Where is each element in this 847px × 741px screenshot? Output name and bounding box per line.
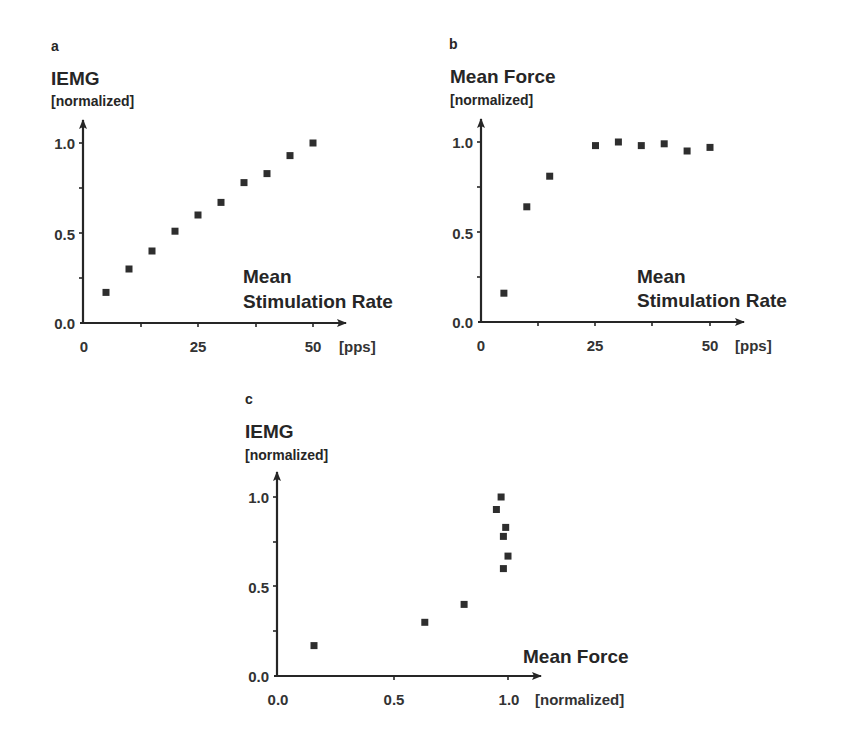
data-point	[638, 142, 645, 149]
data-point	[500, 565, 507, 572]
x-tick-label: 0	[80, 338, 88, 355]
x-axis-unit: [normalized]	[535, 691, 624, 708]
x-tick-label: 1.0	[499, 691, 520, 708]
x-axis-title-line2: Stimulation Rate	[243, 291, 393, 312]
data-point	[287, 152, 294, 159]
figure: a IEMG [normalized] 1.0 0.5 0.0 0 25 50 …	[0, 0, 847, 741]
data-points	[311, 494, 512, 650]
x-axis-unit: [pps]	[735, 337, 772, 354]
y-tick-label: 1.0	[248, 489, 269, 506]
y-axis-unit: [normalized]	[450, 92, 533, 108]
panel-a: a IEMG [normalized] 1.0 0.5 0.0 0 25 50 …	[51, 38, 393, 355]
data-point	[264, 170, 271, 177]
y-tick-label: 1.0	[54, 135, 75, 152]
data-point	[241, 179, 248, 186]
panel-label: b	[449, 36, 458, 52]
data-point	[500, 290, 507, 297]
x-tick-label: 0	[477, 337, 485, 354]
panel-label: a	[51, 38, 59, 54]
data-point	[505, 553, 512, 560]
x-tick-label: 25	[190, 338, 207, 355]
data-point	[500, 533, 507, 540]
data-point	[661, 140, 668, 147]
data-point	[493, 506, 500, 513]
data-point	[310, 140, 317, 147]
data-point	[502, 524, 509, 531]
panel-b: b Mean Force [normalized] 1.0 0.5 0.0 0 …	[449, 36, 787, 354]
data-point	[546, 173, 553, 180]
panel-label: c	[245, 391, 253, 407]
data-point	[592, 142, 599, 149]
data-point	[103, 289, 110, 296]
y-axis-unit: [normalized]	[245, 447, 328, 463]
y-axis-title: IEMG	[245, 421, 294, 442]
y-axis-unit: [normalized]	[51, 93, 134, 109]
x-tick-label: 50	[305, 338, 322, 355]
y-axis-title: Mean Force	[450, 66, 556, 87]
data-point	[707, 144, 714, 151]
y-tick-label: 0.0	[248, 668, 269, 685]
data-point	[498, 494, 505, 501]
x-axis-unit: [pps]	[339, 338, 376, 355]
y-tick-label: 0.5	[452, 225, 473, 242]
x-axis-title-line1: Mean	[243, 266, 292, 287]
x-axis-title-line1: Mean Force	[523, 646, 629, 667]
data-point	[172, 228, 179, 235]
data-point	[195, 212, 202, 219]
y-tick-label: 1.0	[452, 134, 473, 151]
y-tick-label: 0.5	[54, 226, 75, 243]
y-axis-title: IEMG	[51, 68, 100, 89]
x-axis-title-line2: Stimulation Rate	[637, 290, 787, 311]
data-point	[523, 203, 530, 210]
data-point	[218, 199, 225, 206]
y-tick-label: 0.0	[452, 314, 473, 331]
y-tick-label: 0.5	[248, 579, 269, 596]
x-axis-title-line1: Mean	[637, 266, 686, 287]
x-tick-label: 0.0	[268, 691, 289, 708]
data-point	[421, 619, 428, 626]
data-point	[126, 266, 133, 273]
y-tick-label: 0.0	[54, 315, 75, 332]
data-point	[149, 248, 156, 255]
x-tick-label: 25	[587, 337, 604, 354]
data-point	[684, 148, 691, 155]
panel-c: c IEMG [normalized] 1.0 0.5 0.0 0.0 0.5 …	[245, 391, 629, 708]
data-point	[311, 642, 318, 649]
x-tick-label: 50	[702, 337, 719, 354]
data-point	[615, 139, 622, 146]
x-tick-label: 0.5	[384, 691, 405, 708]
data-point	[461, 601, 468, 608]
